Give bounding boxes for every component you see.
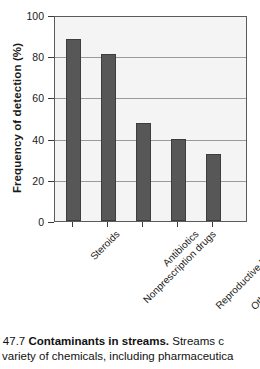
- x-tick-mark-0: [72, 222, 73, 227]
- figure-number: E 47.7: [0, 335, 25, 347]
- x-tick-label-steroids: Steroids: [89, 229, 122, 262]
- bar-steroids: [66, 39, 81, 221]
- y-axis-title: Frequency of detection (%): [11, 13, 23, 223]
- x-tick-mark-4: [212, 222, 213, 227]
- y-tick-label-40: 40: [4, 135, 44, 146]
- y-tick-label-60: 60: [4, 93, 44, 104]
- gridline-60: [55, 98, 246, 99]
- figure-title: Contaminants in streams.: [28, 335, 169, 347]
- y-tick-mark-0: [48, 222, 54, 223]
- bar-nonprescription-drugs: [101, 54, 116, 221]
- y-tick-label-80: 80: [4, 52, 44, 63]
- figure-caption-line-2: variety of chemicals, including pharmace…: [2, 349, 260, 364]
- x-tick-mark-3: [177, 222, 178, 227]
- figure-caption-line-1: E 47.7 Contaminants in streams. Streams …: [0, 334, 260, 349]
- y-tick-label-20: 20: [4, 176, 44, 187]
- figure-caption-tail: Streams c: [172, 335, 224, 347]
- gridline-80: [55, 57, 246, 58]
- x-tick-mark-1: [107, 222, 108, 227]
- x-tick-mark-2: [142, 222, 143, 227]
- bar-other-prescription-drugs: [206, 154, 221, 221]
- figure-container: Frequency of detection (%) 100 80 60 40 …: [0, 0, 260, 369]
- y-tick-label-0: 0: [4, 217, 44, 228]
- bar-reproductive-hormones: [171, 139, 186, 221]
- y-tick-label-100: 100: [4, 11, 44, 22]
- plot-area: [54, 16, 247, 222]
- bar-antibiotics: [136, 123, 151, 221]
